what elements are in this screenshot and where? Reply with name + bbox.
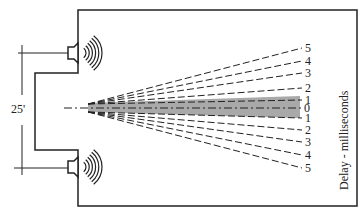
upper-speaker-icon: [68, 43, 78, 63]
delay-label-lower-5: 5: [305, 161, 311, 175]
delay-label-upper-3: 3: [305, 66, 311, 80]
lower-speaker-icon: [68, 157, 78, 177]
delay-label-upper-1: 1: [305, 93, 311, 107]
delay-line-lower-5: [88, 112, 302, 168]
delay-line-upper-5: [88, 48, 302, 104]
delay-label-lower-3: 3: [305, 135, 311, 149]
delay-line-lower-4: [88, 112, 302, 155]
dimension-label: 25': [11, 102, 25, 116]
delay-label-upper-5: 5: [305, 41, 311, 55]
axis-label: Delay - milliseconds: [337, 90, 351, 190]
lower-sound-wave: [88, 157, 93, 176]
delay-label-lower-4: 4: [305, 148, 311, 162]
delay-diagram: 25' 0 5432112345 Delay - milliseconds: [0, 0, 360, 216]
upper-sound-wave: [88, 43, 93, 62]
upper-sound-wave: [84, 48, 86, 57]
lower-sound-wave: [84, 162, 86, 171]
